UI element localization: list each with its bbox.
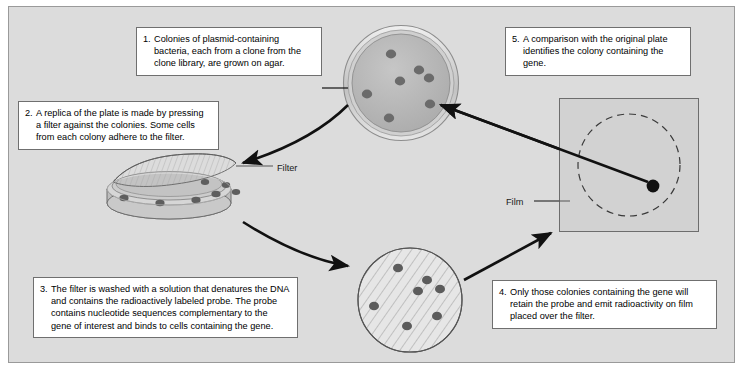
caption-step-5-text: A comparison with the original plate ide…: [523, 33, 683, 70]
caption-step-4-text: Only those colonies containing the gene …: [510, 286, 709, 323]
caption-step-1: 1. Colonies of plasmid-containing bacter…: [136, 27, 322, 76]
caption-step-1-number: 1.: [143, 33, 154, 45]
caption-step-3-number: 3.: [40, 283, 51, 295]
caption-step-3: 3. The filter is washed with a solution …: [33, 277, 298, 338]
arrow-filter-to-film: [464, 233, 551, 280]
caption-step-5: 5. A comparison with the original plate …: [505, 27, 691, 76]
figure-root: 1. Colonies of plasmid-containing bacter…: [0, 0, 745, 380]
caption-step-2: 2. A replica of the plate is made by pre…: [18, 101, 219, 150]
highlighted-colony: [425, 100, 435, 109]
arrow-plate-to-replica: [243, 105, 348, 163]
autoradiograph-film-panel: [559, 98, 699, 232]
arrow-replica-to-filter: [243, 222, 348, 266]
label-film: Film: [506, 197, 523, 207]
caption-step-2-text: A replica of the plate is made by pressi…: [36, 107, 211, 144]
caption-step-4-number: 4.: [499, 286, 510, 298]
caption-step-1-text: Colonies of plasmid-containing bacteria,…: [154, 33, 314, 70]
agar-plate-with-colonies: [344, 26, 459, 141]
caption-step-4: 4. Only those colonies containing the ge…: [492, 280, 717, 329]
replica-plate-with-filter: [107, 154, 240, 219]
hybridized-filter-disc: [358, 248, 462, 352]
caption-step-5-number: 5.: [512, 33, 523, 45]
label-filter: Filter: [277, 163, 297, 173]
caption-step-3-text: The filter is washed with a solution tha…: [51, 283, 290, 332]
caption-step-2-number: 2.: [25, 107, 36, 119]
